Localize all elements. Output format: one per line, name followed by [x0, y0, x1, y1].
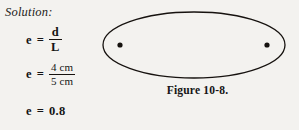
equation-equals-sign: =	[37, 67, 44, 82]
figure-caption: Figure 10-8.	[96, 84, 299, 96]
solution-heading: Solution:	[5, 5, 53, 20]
fraction-numerator: d	[50, 26, 61, 40]
equation-lhs-symbol: e	[26, 67, 32, 82]
figure-block: Figure 10-8.	[96, 0, 299, 130]
fraction-4cm-over-5cm: 4 cm 5 cm	[49, 62, 75, 87]
ellipse-diagram	[96, 0, 299, 92]
right-focus-point	[264, 42, 269, 47]
fraction-denominator: 5 cm	[49, 75, 75, 87]
equation-eccentricity-definition: e = d L	[26, 26, 62, 54]
equation-equals-sign: =	[37, 104, 44, 119]
equation-eccentricity-values: e = 4 cm 5 cm	[26, 62, 75, 87]
equation-result-value: 0.8	[49, 104, 66, 119]
document-page: Solution: e = d L e = 4 cm 5 cm e = 0.8 …	[0, 0, 299, 130]
equation-eccentricity-result: e = 0.8	[26, 104, 66, 119]
equation-lhs-symbol: e	[26, 104, 32, 119]
fraction-numerator: 4 cm	[49, 62, 75, 74]
equation-equals-sign: =	[37, 33, 44, 48]
fraction-denominator: L	[49, 40, 62, 54]
ellipse-outline	[103, 12, 285, 78]
equation-lhs-symbol: e	[26, 33, 32, 48]
left-focus-point	[117, 42, 122, 47]
fraction-d-over-l: d L	[49, 26, 62, 54]
